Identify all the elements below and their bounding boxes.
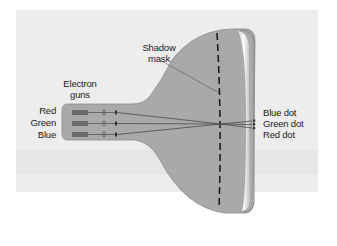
phosphor-dots (253, 120, 255, 130)
shadow-mask-label-line2: mask (134, 53, 184, 64)
gun-green-block (72, 121, 88, 126)
electron-guns-label-line2: guns (58, 89, 102, 100)
gun-red-block (72, 110, 88, 115)
gun-green-label: Green (20, 117, 56, 128)
green-dot-label: Green dot (263, 118, 303, 129)
gun-blue-label: Blue (20, 129, 56, 140)
shadow-mask-label-line1: Shadow (134, 42, 184, 53)
electron-guns-label: Electron guns (58, 78, 102, 100)
electron-guns-label-line1: Electron (58, 78, 102, 89)
red-dot-label: Red dot (263, 129, 295, 140)
blue-dot-label: Blue dot (263, 107, 296, 118)
shadow-mask-label: Shadow mask (134, 42, 184, 64)
gun-blue-block (72, 132, 88, 137)
gun-red-label: Red (20, 105, 56, 116)
